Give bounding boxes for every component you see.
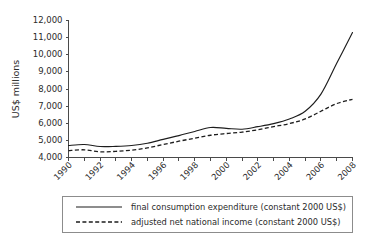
y-tick-label: 12,000 bbox=[33, 15, 63, 25]
y-tick-label: 8,000 bbox=[38, 84, 62, 94]
x-axis-group: 1990199219941996199820002002200420062008 bbox=[52, 158, 358, 183]
legend: final consumption expenditure (constant … bbox=[63, 197, 353, 233]
x-tick-label: 1994 bbox=[115, 160, 137, 182]
x-tick-label: 2006 bbox=[304, 160, 326, 182]
line-chart: 4,0005,0006,0007,0008,0009,00010,00011,0… bbox=[0, 0, 367, 241]
y-tick-label: 4,000 bbox=[38, 152, 62, 162]
x-axis-tick-labels: 1990199219941996199820002002200420062008 bbox=[52, 160, 358, 182]
x-tick-label: 1998 bbox=[178, 160, 200, 182]
x-tick-label: 1990 bbox=[52, 160, 74, 182]
x-tick-label: 2004 bbox=[272, 160, 294, 182]
x-tick-label: 2000 bbox=[209, 160, 231, 182]
y-axis-group: 4,0005,0006,0007,0008,0009,00010,00011,0… bbox=[10, 15, 69, 162]
x-tick-label: 2008 bbox=[336, 160, 358, 182]
x-tick-label: 2002 bbox=[241, 160, 263, 182]
y-tick-label: 9,000 bbox=[38, 66, 62, 76]
x-tick-label: 1992 bbox=[83, 160, 105, 182]
series-final-consumption-expenditure bbox=[69, 32, 353, 146]
y-tick-label: 7,000 bbox=[38, 101, 62, 111]
y-axis-title: US$ millions bbox=[10, 60, 21, 119]
chart-container: 4,0005,0006,0007,0008,0009,00010,00011,0… bbox=[0, 0, 367, 241]
y-tick-label: 11,000 bbox=[33, 32, 63, 42]
legend-label-1: adjusted net national income (constant 2… bbox=[131, 217, 341, 227]
y-tick-label: 6,000 bbox=[38, 118, 62, 128]
y-tick-label: 10,000 bbox=[33, 49, 63, 59]
plot-series-group bbox=[69, 32, 353, 151]
legend-label-0: final consumption expenditure (constant … bbox=[131, 202, 346, 212]
x-tick-label: 1996 bbox=[146, 160, 168, 182]
y-axis-tick-labels: 4,0005,0006,0007,0008,0009,00010,00011,0… bbox=[33, 15, 63, 162]
y-tick-label: 5,000 bbox=[38, 135, 62, 145]
